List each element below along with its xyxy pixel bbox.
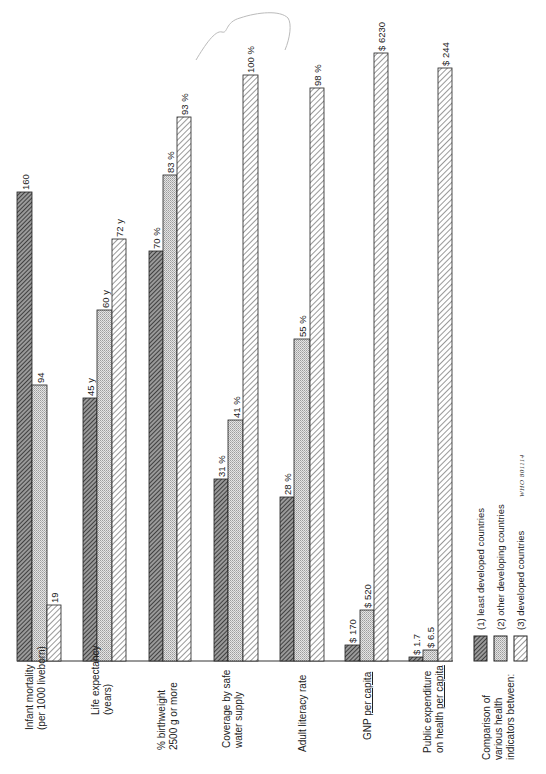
bar-developed: [47, 605, 61, 661]
bar-developed: [310, 88, 324, 661]
value-label: 55 %: [297, 315, 308, 337]
category-label-infant-mortality: Infant mortality (per 1000 liveborn): [24, 646, 48, 730]
category-label-life-expectancy: Life expectancy (years): [90, 646, 114, 716]
bar-developed: [374, 53, 388, 661]
legend-title-line: Comparison of: [481, 674, 493, 760]
category-label-gnp-per-capita: GNP per capita: [362, 672, 374, 740]
bar-group-infant-mortality: [17, 192, 61, 661]
bar-least-developed: [214, 479, 228, 661]
legend-title: Comparison of various health indicators …: [481, 674, 517, 760]
value-label: 70 %: [151, 227, 162, 249]
bar-group-water-supply: [214, 75, 258, 661]
value-label: $ 6.5: [425, 627, 436, 648]
bar-developed: [243, 75, 258, 661]
bar-other-developing: [163, 175, 177, 661]
bar-other-developing: [97, 310, 112, 661]
value-label: 45 y: [85, 378, 96, 396]
legend-label-other-developing: (2) other developing countries: [495, 504, 506, 630]
value-label: 60 y: [100, 290, 111, 308]
value-label: 93 %: [179, 93, 190, 115]
legend-swatch-least-developed: [474, 636, 487, 661]
value-label: 98 %: [312, 64, 323, 86]
who-code: WHO 801114: [517, 454, 528, 497]
legend-title-line: various health: [493, 674, 505, 760]
legend-label-least-developed: (1) least developed countries: [475, 508, 486, 630]
category-label-underlined: per capita: [434, 665, 445, 709]
value-label: $ 244: [440, 42, 451, 66]
category-label-water-supply: Coverage by safe water supply: [221, 670, 245, 748]
category-label-underlined: per capita: [362, 672, 373, 716]
legend-title-line: indicators between:: [505, 674, 517, 760]
category-label-line: 2500 g or more: [168, 682, 180, 750]
category-label-line: on health per capita: [434, 665, 446, 753]
bar-developed: [438, 68, 452, 661]
value-label: 83 %: [165, 151, 176, 173]
value-label: 100 %: [245, 46, 256, 73]
bar-other-developing: [32, 385, 47, 661]
category-label-line: GNP per capita: [362, 672, 374, 740]
category-label-line: Infant mortality: [24, 646, 36, 730]
category-label-line: Life expectancy: [90, 646, 102, 716]
category-label-line: (per 1000 liveborn): [36, 646, 48, 730]
category-label-line: Coverage by safe: [221, 670, 233, 748]
bar-other-developing: [423, 650, 438, 661]
bar-group-gnp-per-capita: [345, 53, 388, 661]
value-label: 160: [20, 174, 31, 190]
category-label-line: % birthweight: [156, 682, 168, 750]
bar-other-developing: [228, 420, 243, 661]
value-label: 31 %: [216, 455, 227, 477]
value-label: 72 y: [114, 219, 125, 237]
category-label-text: on health: [434, 709, 445, 753]
category-label-text: GNP: [362, 716, 373, 740]
pen-scribble: [196, 13, 290, 60]
value-label: $ 520: [362, 584, 373, 608]
value-label: 94: [35, 372, 46, 383]
value-label: 19: [49, 592, 60, 603]
category-label-public-expenditure: Public expenditure on health per capita: [422, 665, 446, 753]
category-label-line: Adult literacy rate: [297, 675, 309, 752]
value-label: 41 %: [231, 396, 242, 418]
bar-group-adult-literacy: [280, 88, 324, 661]
legend-swatch-developed: [514, 636, 527, 661]
category-label-adult-literacy: Adult literacy rate: [297, 675, 309, 752]
bar-other-developing: [360, 610, 374, 661]
value-label: $ 1.7: [411, 634, 422, 655]
legend-label-developed: (3) developed countries: [515, 531, 526, 630]
category-label-line: (years): [102, 646, 114, 716]
value-label: $ 170: [347, 619, 358, 643]
bar-least-developed: [280, 497, 294, 661]
bar-developed: [177, 117, 191, 661]
category-label-birthweight: % birthweight 2500 g or more: [156, 682, 180, 750]
bar-group-birthweight: [149, 117, 191, 661]
legend-swatch-other-developing: [494, 636, 507, 661]
bar-least-developed: [409, 657, 423, 661]
bar-developed: [112, 239, 126, 661]
bar-group-public-health-expenditure: [409, 68, 452, 661]
value-label: 28 %: [282, 473, 293, 495]
category-label-line: water supply: [233, 670, 245, 748]
bar-least-developed: [83, 398, 97, 661]
bar-other-developing: [294, 339, 310, 661]
bar-least-developed: [17, 192, 32, 661]
bar-least-developed: [345, 645, 360, 661]
bar-least-developed: [149, 251, 163, 661]
health-indicators-chart: [0, 0, 546, 774]
category-label-line: Public expenditure: [422, 665, 434, 753]
value-label: $ 6230: [376, 22, 387, 51]
